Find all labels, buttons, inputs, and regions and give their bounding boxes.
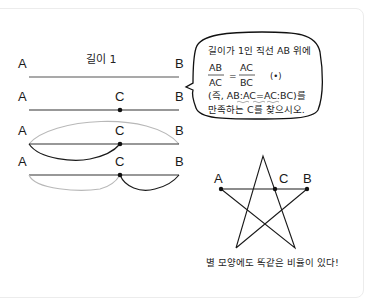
label-c: C <box>115 154 124 169</box>
fraction-left-denominator: AC <box>209 77 222 88</box>
fraction-right-denominator: BC <box>240 77 253 88</box>
segment-row-4: A C B <box>18 154 184 190</box>
segment-row-2: A C B <box>18 89 184 112</box>
equals-sign: = <box>229 71 237 81</box>
label-b: B <box>175 123 184 138</box>
point-c-dot <box>118 142 123 147</box>
label-c: C <box>115 123 124 138</box>
pentagram: A C B 별 모양에도 똑같은 비율이 있다! <box>206 156 339 268</box>
arc-ac-lower <box>29 144 120 160</box>
length-label: 길이 1 <box>86 53 117 66</box>
label-a: A <box>18 154 27 169</box>
arc-cb-lower <box>120 175 179 190</box>
segment-row-1: A 길이 1 B <box>18 53 184 77</box>
label-a: A <box>18 56 27 71</box>
star-point-b-dot <box>305 187 309 191</box>
star-label-a: A <box>214 171 223 186</box>
star-point-c-dot <box>273 187 277 191</box>
star-caption: 별 모양에도 똑같은 비율이 있다! <box>206 257 339 268</box>
star-label-b: B <box>303 171 312 186</box>
fraction-left-numerator: AB <box>209 62 222 73</box>
bubble-line-4: 만족하는 C를 찾으시오. <box>208 104 305 115</box>
speech-bubble: 길이가 1인 직선 AB 위에 AB AC = AC BC (•) (즉, AB… <box>186 32 322 119</box>
label-b: B <box>175 154 184 169</box>
bubble-line-3: (즉, AB:AC=AC:BC)를 <box>208 90 306 101</box>
label-a: A <box>18 89 27 104</box>
arc-ac-lower <box>29 175 120 190</box>
segment-row-3: A C B <box>18 121 184 160</box>
star-label-c: C <box>279 171 288 186</box>
label-b: B <box>175 56 184 71</box>
label-a: A <box>18 123 27 138</box>
point-c-dot <box>118 173 123 178</box>
point-c-dot <box>118 108 123 113</box>
label-c: C <box>115 89 124 104</box>
label-b: B <box>175 89 184 104</box>
equation-marker: (•) <box>270 71 282 81</box>
fraction-right-numerator: AC <box>240 62 253 73</box>
bubble-line-1: 길이가 1인 직선 AB 위에 <box>208 45 311 56</box>
star-point-a-dot <box>219 187 223 191</box>
arc-ab-upper <box>29 121 179 144</box>
star-outline <box>221 156 307 248</box>
